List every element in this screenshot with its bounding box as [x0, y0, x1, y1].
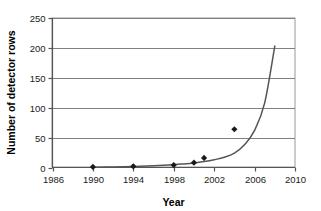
x-tick-label-1990: 1990	[83, 174, 104, 185]
x-tick-label-2002: 2002	[204, 174, 225, 185]
y-tick-label-150: 150	[30, 73, 46, 84]
y-tick-label-0: 0	[40, 163, 45, 174]
chart-container: 050100150200250 198619901994199820022006…	[0, 0, 321, 211]
x-tick-label-1994: 1994	[123, 174, 144, 185]
detector-rows-chart: 050100150200250 198619901994199820022006…	[0, 0, 321, 211]
x-tick-label-2006: 2006	[245, 174, 266, 185]
x-axis-title: Year	[162, 196, 184, 208]
plot-area-frame	[52, 18, 295, 167]
y-tick-label-50: 50	[35, 133, 46, 144]
x-tick-label-2010: 2010	[285, 174, 306, 185]
y-tick-label-250: 250	[30, 13, 46, 24]
x-tick-label-1986: 1986	[43, 174, 64, 185]
x-tick-label-1998: 1998	[164, 174, 185, 185]
y-tick-label-200: 200	[30, 43, 46, 54]
y-tick-label-100: 100	[30, 103, 46, 114]
y-axis-title: Number of detector rows	[5, 30, 17, 154]
